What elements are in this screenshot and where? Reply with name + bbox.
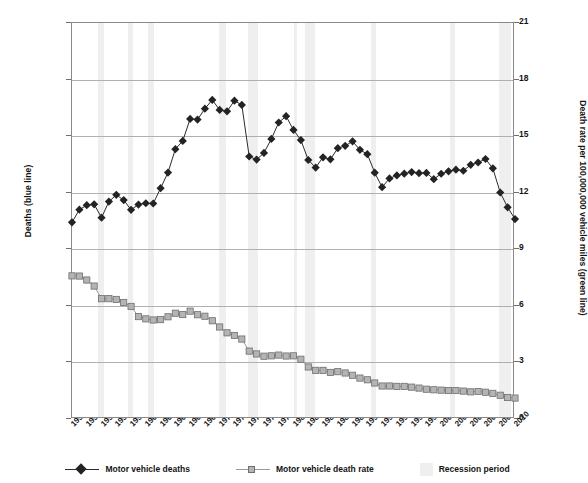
- data-point-death-rate: [76, 273, 82, 279]
- data-point-deaths: [142, 199, 150, 207]
- data-point-death-rate: [401, 383, 407, 389]
- legend-item[interactable]: Recession period: [420, 463, 510, 476]
- data-point-deaths: [134, 200, 142, 208]
- data-point-death-rate: [505, 394, 511, 400]
- data-point-death-rate: [305, 364, 311, 370]
- data-point-death-rate: [128, 303, 134, 309]
- data-point-death-rate: [394, 383, 400, 389]
- data-point-death-rate: [468, 389, 474, 395]
- data-point-deaths: [238, 101, 246, 109]
- data-point-deaths: [90, 200, 98, 208]
- y-tick-label-right: 15: [519, 129, 579, 139]
- data-point-deaths: [193, 116, 201, 124]
- y-tick-label-right: 3: [519, 355, 579, 365]
- data-point-death-rate: [172, 310, 178, 316]
- series-layer: [72, 23, 515, 419]
- data-point-deaths: [75, 206, 83, 214]
- data-point-death-rate: [150, 317, 156, 323]
- y-axis-title-right: Death rate per 100,000,000 vehicle miles…: [578, 93, 588, 323]
- data-point-death-rate: [290, 353, 296, 359]
- data-point-death-rate: [416, 385, 422, 391]
- legend-label: Motor vehicle deaths: [105, 464, 190, 474]
- data-point-deaths: [186, 115, 194, 123]
- data-point-death-rate: [372, 380, 378, 386]
- data-point-death-rate: [313, 367, 319, 373]
- data-point-deaths: [68, 218, 76, 226]
- data-point-deaths: [371, 169, 379, 177]
- data-point-deaths: [474, 158, 482, 166]
- data-point-death-rate: [135, 314, 141, 320]
- legend-swatch-recession: [420, 463, 433, 476]
- data-point-deaths: [504, 203, 512, 211]
- data-point-death-rate: [482, 389, 488, 395]
- data-point-death-rate: [187, 308, 193, 314]
- data-point-deaths: [319, 153, 327, 161]
- legend-diamond-icon: [76, 463, 87, 474]
- data-point-death-rate: [445, 387, 451, 393]
- legend-square-icon: [248, 466, 255, 473]
- data-point-deaths: [149, 199, 157, 207]
- data-point-deaths: [415, 169, 423, 177]
- data-point-deaths: [437, 170, 445, 178]
- y-axis-title-left: Deaths (blue line): [23, 121, 33, 281]
- data-point-death-rate: [261, 353, 267, 359]
- data-point-death-rate: [438, 387, 444, 393]
- data-point-deaths: [393, 171, 401, 179]
- data-point-deaths: [127, 206, 135, 214]
- y-tick-label-right: 9: [519, 242, 579, 252]
- data-point-death-rate: [106, 296, 112, 302]
- data-point-deaths: [164, 168, 172, 176]
- data-point-death-rate: [475, 388, 481, 394]
- data-point-deaths: [267, 135, 275, 143]
- data-point-deaths: [452, 166, 460, 174]
- legend-item[interactable]: Motor vehicle death rate: [236, 464, 374, 474]
- data-point-death-rate: [91, 283, 97, 289]
- data-point-death-rate: [253, 351, 259, 357]
- legend-marker: [65, 464, 99, 474]
- data-point-death-rate: [453, 387, 459, 393]
- data-point-death-rate: [497, 392, 503, 398]
- data-point-deaths: [341, 142, 349, 150]
- data-point-deaths: [230, 97, 238, 105]
- data-point-death-rate: [246, 348, 252, 354]
- data-point-death-rate: [335, 369, 341, 375]
- data-point-death-rate: [113, 296, 119, 302]
- data-point-death-rate: [143, 316, 149, 322]
- data-point-deaths: [289, 126, 297, 134]
- data-point-death-rate: [165, 314, 171, 320]
- data-point-death-rate: [202, 313, 208, 319]
- data-point-deaths: [400, 170, 408, 178]
- data-point-death-rate: [276, 352, 282, 358]
- data-point-death-rate: [349, 372, 355, 378]
- data-point-death-rate: [490, 390, 496, 396]
- y-tick-label-right: 12: [519, 186, 579, 196]
- data-point-death-rate: [327, 369, 333, 375]
- data-point-deaths: [496, 188, 504, 196]
- data-point-death-rate: [298, 356, 304, 362]
- legend-item[interactable]: Motor vehicle deaths: [65, 464, 190, 474]
- data-point-death-rate: [512, 395, 518, 401]
- data-point-death-rate: [224, 330, 230, 336]
- data-point-death-rate: [409, 384, 415, 390]
- series-line-death-rate: [72, 276, 515, 398]
- data-point-death-rate: [364, 377, 370, 383]
- y-tick-label-right: 21: [519, 16, 579, 26]
- data-point-deaths: [363, 150, 371, 158]
- data-point-death-rate: [217, 324, 223, 330]
- data-point-death-rate: [431, 387, 437, 393]
- data-point-death-rate: [423, 386, 429, 392]
- data-point-death-rate: [239, 336, 245, 342]
- data-point-death-rate: [357, 375, 363, 381]
- data-point-death-rate: [121, 299, 127, 305]
- legend-label: Recession period: [439, 464, 510, 474]
- data-point-deaths: [444, 167, 452, 175]
- data-point-death-rate: [386, 383, 392, 389]
- legend-marker: [236, 464, 270, 474]
- data-point-death-rate: [231, 332, 237, 338]
- data-point-death-rate: [209, 318, 215, 324]
- y-tick-label-right: 18: [519, 73, 579, 83]
- data-point-deaths: [408, 168, 416, 176]
- chart-legend: Motor vehicle deathsMotor vehicle death …: [0, 458, 575, 480]
- data-point-death-rate: [283, 353, 289, 359]
